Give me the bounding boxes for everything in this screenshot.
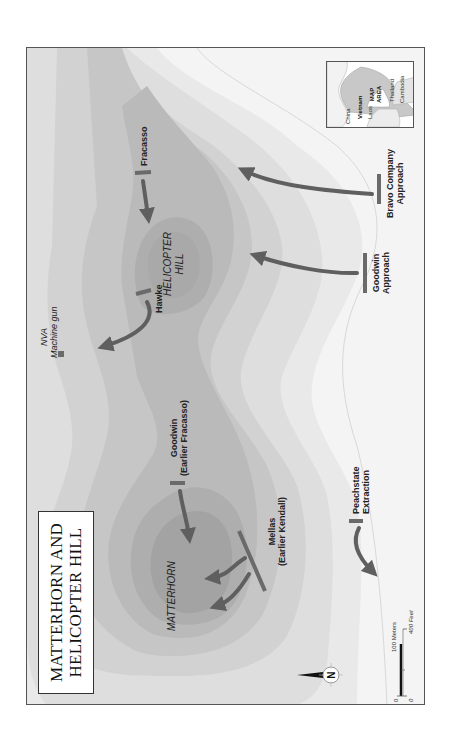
title-line-2: HELICOPTER HILL: [66, 528, 85, 678]
map-title: MATTERHORN AND HELICOPTER HILL: [38, 511, 94, 694]
goodwin-label: Goodwin (Earlier Fracasso): [169, 400, 189, 476]
fracasso-label: Fracasso: [139, 126, 149, 166]
peachstate-line2: Extraction: [361, 466, 371, 514]
goodwin-approach-line2: Approach: [381, 252, 391, 294]
inset-label-thailand: Thailand: [389, 79, 396, 102]
mellas-line2: (Earlier Kendall): [277, 497, 287, 566]
mellas-label: Mellas (Earlier Kendall): [267, 497, 287, 566]
bravo-line1: Bravo Company: [385, 149, 395, 218]
goodwin-line1: Goodwin: [169, 400, 179, 476]
inset-label-china: China: [345, 108, 352, 124]
goodwin-approach-line1: Goodwin: [371, 252, 381, 294]
bravo-line2: Approach: [395, 149, 405, 218]
goodwin-line2: (Earlier Fracasso): [179, 400, 189, 476]
north-arrow: N: [295, 658, 345, 692]
nva-label: NVA Machine gun: [39, 306, 59, 358]
map-canvas: MATTERHORN AND HELICOPTER HILL MATTERHOR…: [27, 48, 425, 705]
svg-text:100 Meters: 100 Meters: [391, 622, 397, 652]
map-frame: MATTERHORN AND HELICOPTER HILL MATTERHOR…: [26, 47, 425, 705]
nva-line1: NVA: [39, 306, 49, 358]
bravo-approach-label: Bravo Company Approach: [385, 149, 405, 218]
peachstate-line1: Peachstate: [351, 466, 361, 514]
inset-label-laos: Laos: [367, 106, 374, 119]
scale-bar-graphic: 0 100 Meters 0 400 Feet: [385, 604, 421, 704]
inset-label-map-area: MAP AREA: [369, 86, 383, 103]
inset-label-cambodia: Cambodia: [399, 76, 406, 103]
svg-text:0: 0: [393, 698, 399, 702]
locator-inset: China Vietnam Laos MAP AREA Thailand Cam…: [326, 61, 414, 128]
inset-label-vietnam: Vietnam: [357, 96, 364, 119]
helicopter-hill-line2: HILL: [174, 232, 186, 296]
scale-bar: 0 100 Meters 0 400 Feet: [385, 604, 421, 704]
svg-text:0: 0: [408, 698, 414, 702]
matterhorn-label: MATTERHORN: [167, 561, 177, 631]
north-arrow-icon: N: [295, 658, 345, 692]
title-line-1: MATTERHORN AND: [47, 523, 66, 682]
svg-text:400 Feet: 400 Feet: [408, 610, 414, 634]
svg-text:N: N: [326, 671, 337, 678]
nva-line2: Machine gun: [49, 306, 59, 358]
helicopter-hill-label: HELICOPTER HILL: [162, 232, 186, 296]
hawke-label: Hawke: [154, 284, 164, 313]
peachstate-label: Peachstate Extraction: [351, 466, 371, 514]
mellas-line1: Mellas: [267, 497, 277, 566]
goodwin-approach-label: Goodwin Approach: [371, 252, 391, 294]
